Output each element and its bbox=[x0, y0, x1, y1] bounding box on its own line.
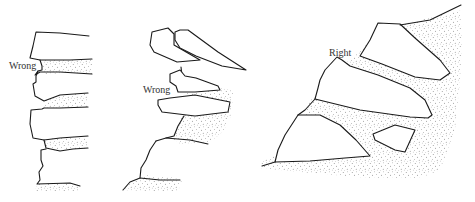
label-wrong-1: Wrong bbox=[9, 60, 36, 71]
stone bbox=[175, 30, 246, 70]
earth-fill bbox=[122, 175, 182, 192]
stone-placement-diagram: Wrong Wrong Right bbox=[0, 0, 475, 202]
stone bbox=[30, 107, 88, 140]
stone bbox=[37, 149, 80, 186]
panel-right bbox=[260, 5, 462, 178]
earth-fill bbox=[44, 93, 88, 108]
stone bbox=[170, 70, 220, 92]
stone bbox=[30, 32, 92, 60]
label-right: Right bbox=[329, 47, 351, 58]
panel-wrong-vertical bbox=[30, 32, 92, 192]
panel-wrong-tilted bbox=[122, 28, 246, 192]
label-wrong-2: Wrong bbox=[143, 84, 170, 95]
